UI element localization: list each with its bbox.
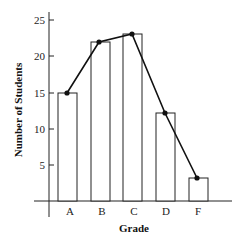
grade-distribution-chart: 5 10 15 20 25 A B C D F Grade Number of … xyxy=(0,0,239,242)
bar-c xyxy=(123,34,142,201)
y-ticks: 5 10 15 20 25 xyxy=(34,14,54,171)
bar-b xyxy=(91,42,110,201)
y-tick-label: 10 xyxy=(34,123,46,135)
x-tick-label: A xyxy=(66,205,74,217)
x-tick-label: F xyxy=(195,205,201,217)
bar-a xyxy=(58,93,77,201)
x-tick-label: C xyxy=(130,205,137,217)
x-tick-label: D xyxy=(162,205,170,217)
bars xyxy=(58,34,208,201)
y-tick-label: 25 xyxy=(34,14,46,26)
y-tick-label: 20 xyxy=(34,50,46,62)
y-tick-label: 15 xyxy=(34,87,46,99)
x-axis-title: Grade xyxy=(119,222,149,234)
x-tick-label: B xyxy=(98,205,105,217)
y-axis-title: Number of Students xyxy=(12,62,24,157)
bar-f xyxy=(189,178,208,201)
y-tick-label: 5 xyxy=(40,159,46,171)
